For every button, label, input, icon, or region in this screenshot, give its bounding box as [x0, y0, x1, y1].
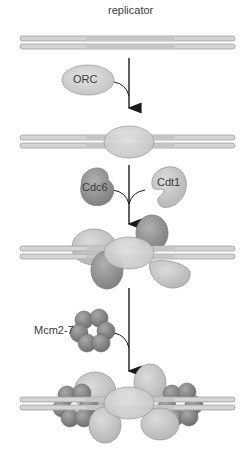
cdt1-label: Cdt1	[157, 176, 180, 188]
orc-bound-dna	[20, 126, 235, 158]
orc-cdc6-cdt1-complex	[20, 215, 235, 289]
mcm2-7-label: Mcm2-7	[34, 324, 74, 336]
cdc6-label: Cdc6	[82, 181, 108, 193]
replicator-dna	[20, 36, 235, 49]
pre-rc-complex	[20, 364, 235, 443]
step-arrow-1	[114, 58, 129, 108]
mcm2-7-ring	[70, 309, 115, 352]
step-arrow-3	[114, 288, 129, 371]
pre-rc-assembly-diagram: replicator ORC Cdc6 Cdt1 Mcm2-7	[0, 0, 251, 460]
orc-label: ORC	[73, 73, 97, 85]
step-arrow-2	[113, 165, 145, 224]
diagram-canvas	[0, 0, 251, 460]
replicator-label: replicator	[108, 4, 153, 16]
